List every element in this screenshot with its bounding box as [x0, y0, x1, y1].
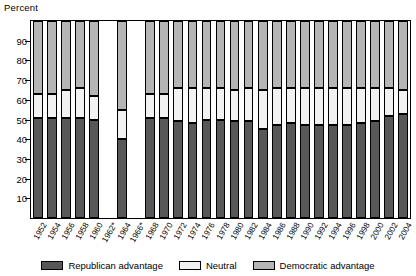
bar-segment-democratic: [202, 21, 212, 88]
bar-segment-republican: [145, 118, 155, 218]
x-axis-labels: 195219541956195819601962*19641966*196819…: [30, 219, 411, 259]
bar-segment-republican: [244, 121, 254, 218]
bar-segment-democratic: [342, 21, 352, 88]
bar-segment-republican: [61, 118, 71, 218]
x-axis-tick-label: 2000: [369, 221, 386, 241]
legend-swatch: [179, 261, 201, 270]
bar-segment-republican: [188, 123, 198, 218]
bars-layer: [31, 21, 410, 218]
bar-segment-democratic: [75, 21, 85, 88]
y-axis-tick-label: 30: [16, 153, 27, 164]
bar-segment-neutral: [342, 88, 352, 125]
bar-segment-neutral: [117, 110, 127, 140]
bar-column: [258, 21, 268, 218]
x-axis-tick-label: 1956: [60, 221, 77, 241]
bar-segment-democratic: [89, 21, 99, 96]
bar-segment-democratic: [47, 21, 57, 94]
bar-segment-democratic: [356, 21, 366, 88]
legend-item[interactable]: Neutral: [179, 260, 237, 271]
bar-segment-democratic: [300, 21, 310, 88]
legend-swatch: [253, 261, 275, 270]
bar-column: [47, 21, 57, 218]
bar-segment-democratic: [117, 21, 127, 110]
bar-column: [244, 21, 254, 218]
bar-segment-republican: [75, 118, 85, 218]
legend-swatch: [41, 261, 63, 270]
bar-segment-republican: [89, 120, 99, 219]
legend-item[interactable]: Republican advantage: [41, 260, 163, 271]
bar-segment-neutral: [286, 88, 296, 123]
y-axis-tick-label: 10: [16, 193, 27, 204]
bar-segment-democratic: [384, 21, 394, 88]
bar-column: [356, 21, 366, 218]
bar-segment-republican: [47, 118, 57, 218]
bar-column: [202, 21, 212, 218]
bar-column: [398, 21, 408, 218]
bar-segment-democratic: [145, 21, 155, 94]
bar-column: [75, 21, 85, 218]
bar-segment-democratic: [188, 21, 198, 88]
bar-column: [61, 21, 71, 218]
x-axis-tick-label: 1976: [200, 221, 217, 241]
x-axis-tick-label: 1982: [242, 221, 259, 241]
bar-segment-neutral: [230, 90, 240, 122]
x-axis-tick-label: 1990: [299, 221, 316, 241]
bar-segment-neutral: [159, 94, 169, 118]
legend-label: Neutral: [206, 260, 237, 271]
x-axis-tick-label: 1952: [32, 221, 49, 241]
legend-item[interactable]: Democratic advantage: [253, 260, 375, 271]
bar-segment-democratic: [286, 21, 296, 88]
bar-segment-republican: [258, 129, 268, 218]
bar-segment-neutral: [398, 90, 408, 114]
bar-segment-neutral: [258, 90, 268, 129]
y-axis-tick-label: 60: [16, 94, 27, 105]
bar-segment-neutral: [328, 88, 338, 125]
chart-legend: Republican advantageNeutralDemocratic ad…: [0, 256, 416, 274]
bar-column: [33, 21, 43, 218]
bar-segment-republican: [230, 121, 240, 218]
bar-segment-neutral: [314, 88, 324, 125]
bar-segment-democratic: [398, 21, 408, 90]
bar-segment-democratic: [33, 21, 43, 94]
bar-segment-democratic: [159, 21, 169, 94]
bar-segment-neutral: [33, 94, 43, 118]
bar-segment-democratic: [173, 21, 183, 88]
plot-area: 102030405060708090: [30, 20, 411, 219]
bar-column: [286, 21, 296, 218]
y-axis-tick-label: 50: [16, 114, 27, 125]
y-axis-tick-label: 80: [16, 55, 27, 66]
bar-segment-neutral: [300, 88, 310, 125]
bar-segment-republican: [216, 120, 226, 219]
bar-column: [272, 21, 282, 218]
bar-segment-neutral: [384, 88, 394, 116]
x-axis-tick-label: 2002: [383, 221, 400, 241]
bar-segment-republican: [117, 139, 127, 218]
bar-segment-democratic: [244, 21, 254, 88]
y-axis-tick-label: 40: [16, 134, 27, 145]
bar-segment-neutral: [47, 94, 57, 118]
bar-column: [173, 21, 183, 218]
bar-column: [230, 21, 240, 218]
bar-segment-neutral: [356, 88, 366, 123]
x-axis-tick-label: 2004: [397, 221, 414, 241]
x-axis-tick-label: 1954: [46, 221, 63, 241]
bar-column: [328, 21, 338, 218]
bar-segment-republican: [202, 120, 212, 219]
bar-column: [342, 21, 352, 218]
bar-segment-neutral: [272, 88, 282, 125]
x-axis-tick-label: 1974: [186, 221, 203, 241]
x-axis-tick-label: 1988: [285, 221, 302, 241]
bar-segment-neutral: [173, 88, 183, 121]
y-axis-tick-label: 70: [16, 75, 27, 86]
bar-segment-neutral: [89, 96, 99, 120]
bar-segment-republican: [328, 125, 338, 218]
bar-column: [216, 21, 226, 218]
bar-segment-republican: [356, 123, 366, 218]
bar-segment-democratic: [61, 21, 71, 90]
bar-column: [117, 21, 127, 218]
bar-segment-republican: [286, 123, 296, 218]
bar-segment-neutral: [145, 94, 155, 118]
bar-column: [145, 21, 155, 218]
bar-column: [314, 21, 324, 218]
bar-segment-republican: [33, 118, 43, 218]
